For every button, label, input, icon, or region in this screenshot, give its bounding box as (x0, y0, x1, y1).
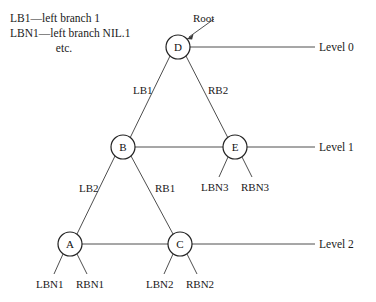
root-annotation-label: Root (193, 12, 214, 24)
edge-label-rb1: RB1 (155, 182, 175, 194)
leaf-label-lbn1: LBN1 (36, 278, 64, 290)
stub-e-left (219, 157, 228, 177)
node-label-e: E (223, 141, 247, 153)
edge-label-lb2: LB2 (79, 182, 99, 194)
edge-b-a (77, 156, 115, 234)
leaf-label-lbn3: LBN3 (201, 181, 229, 193)
node-label-b: B (111, 141, 135, 153)
leaf-label-rbn3: RBN3 (241, 181, 269, 193)
stub-a-left (54, 254, 63, 274)
leaf-label-rbn2: RBN2 (186, 278, 214, 290)
level-label-0: Level 0 (319, 41, 354, 54)
stub-c-left (164, 254, 173, 274)
leaf-label-lbn2: LBN2 (146, 278, 174, 290)
node-label-c: C (168, 238, 192, 250)
legend-line-2: LBN1—left branch NIL.1 (10, 26, 200, 41)
stub-a-right (77, 254, 87, 274)
node-label-d: D (166, 41, 190, 53)
node-label-a: A (58, 238, 82, 250)
edge-d-b (130, 56, 170, 138)
leaf-label-rbn1: RBN1 (76, 278, 104, 290)
edge-d-e (186, 56, 228, 138)
tree-diagram-figure: LB1—left branch 1 LBN1—left branch NIL.1… (0, 0, 376, 302)
legend-line-1: LB1—left branch 1 (10, 11, 200, 26)
level-label-2: Level 2 (319, 238, 354, 251)
stub-c-right (187, 254, 197, 274)
stub-e-right (242, 157, 252, 177)
level-label-1: Level 1 (319, 141, 354, 154)
edge-b-c (131, 156, 173, 234)
legend-line-3: etc. (10, 41, 118, 56)
edge-label-rb2: RB2 (208, 84, 228, 96)
edge-label-lb1: LB1 (133, 84, 153, 96)
